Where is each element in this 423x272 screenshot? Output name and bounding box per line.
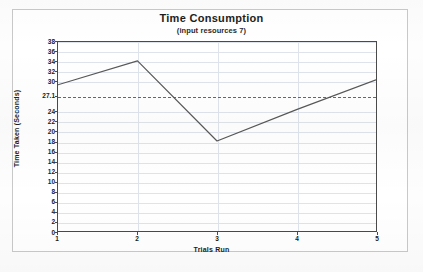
y-tick-label: 4: [27, 208, 55, 215]
data-series-line: [58, 42, 376, 231]
y-tick-label-wrap: 30: [25, 78, 55, 85]
x-tick-label: 2: [127, 235, 147, 242]
chart-title: Time Consumption: [0, 12, 423, 25]
y-tick-label-wrap: 6: [25, 198, 55, 205]
y-tick-label: 30: [27, 78, 55, 85]
x-axis-title: Trials Run: [0, 246, 423, 253]
y-tick-label-wrap: 14: [25, 158, 55, 165]
y-tick-label-wrap: 27.1: [25, 92, 55, 99]
y-tick-label: 18: [27, 138, 55, 145]
y-tick-label-wrap: 16: [25, 148, 55, 155]
y-tick-label-wrap: 12: [25, 168, 55, 175]
y-tick-label: 20: [27, 128, 55, 135]
y-tick-label: 16: [27, 148, 55, 155]
y-tick-label-wrap: 8: [25, 188, 55, 195]
y-tick-label: 38: [27, 38, 55, 45]
y-tick-label-wrap: 38: [25, 38, 55, 45]
title-block: Time Consumption (input resources 7): [0, 12, 423, 36]
y-tick-label-wrap: 22: [25, 118, 55, 125]
x-tick-label: 4: [287, 235, 307, 242]
y-tick-label-wrap: 20: [25, 128, 55, 135]
y-tick-label: 14: [27, 158, 55, 165]
y-tick-label: 32: [27, 68, 55, 75]
y-tick-label: 22: [27, 118, 55, 125]
chart-page: Time Consumption (input resources 7) 024…: [0, 0, 423, 272]
y-tick-label-wrap: 34: [25, 58, 55, 65]
y-tick-label-wrap: 2: [25, 218, 55, 225]
x-tick-label: 5: [367, 235, 387, 242]
y-tick-label: 12: [27, 168, 55, 175]
chart-subtitle: (input resources 7): [0, 25, 423, 36]
y-tick-label: 24: [27, 108, 55, 115]
x-tick-label: 3: [207, 235, 227, 242]
y-tick-label-wrap: 36: [25, 48, 55, 55]
y-tick-label-wrap: 18: [25, 138, 55, 145]
y-tick-label: 8: [27, 188, 55, 195]
y-tick-label-wrap: 24: [25, 108, 55, 115]
y-tick-label: 34: [27, 58, 55, 65]
x-tick-label: 1: [47, 235, 67, 242]
y-tick-label-wrap: 10: [25, 178, 55, 185]
y-tick-label-wrap: 4: [25, 208, 55, 215]
y-tick-label: 27.1: [27, 92, 55, 99]
y-axis-title: Time Taken (Seconds): [13, 69, 20, 189]
y-tick-label: 2: [27, 218, 55, 225]
x-axis-tick-labels: 12345: [0, 235, 423, 245]
y-tick-label-wrap: 32: [25, 68, 55, 75]
y-tick-label: 36: [27, 48, 55, 55]
plot-area: [57, 41, 377, 232]
y-tick-label: 6: [27, 198, 55, 205]
y-tick-label: 10: [27, 178, 55, 185]
y-axis-tick-labels: 02468101214161820222427.13032343638: [25, 41, 55, 232]
